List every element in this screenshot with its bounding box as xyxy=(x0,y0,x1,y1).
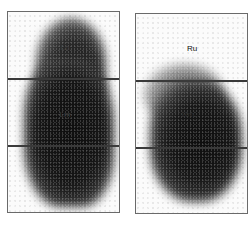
right-lung-panel: Ru Rm xyxy=(135,13,248,214)
left-upper-divider xyxy=(8,78,119,80)
zone-label-right-middle: Rm xyxy=(182,110,194,119)
zone-label-left-upper: Lu xyxy=(61,43,70,52)
right-upper-divider xyxy=(136,80,247,82)
zone-label-left-middle: Lm xyxy=(59,110,70,119)
zone-label-right-upper: Ru xyxy=(187,44,197,53)
right-lower-divider xyxy=(136,147,247,149)
left-lung-panel: Lu Lm xyxy=(7,11,120,213)
left-lower-divider xyxy=(8,145,119,147)
